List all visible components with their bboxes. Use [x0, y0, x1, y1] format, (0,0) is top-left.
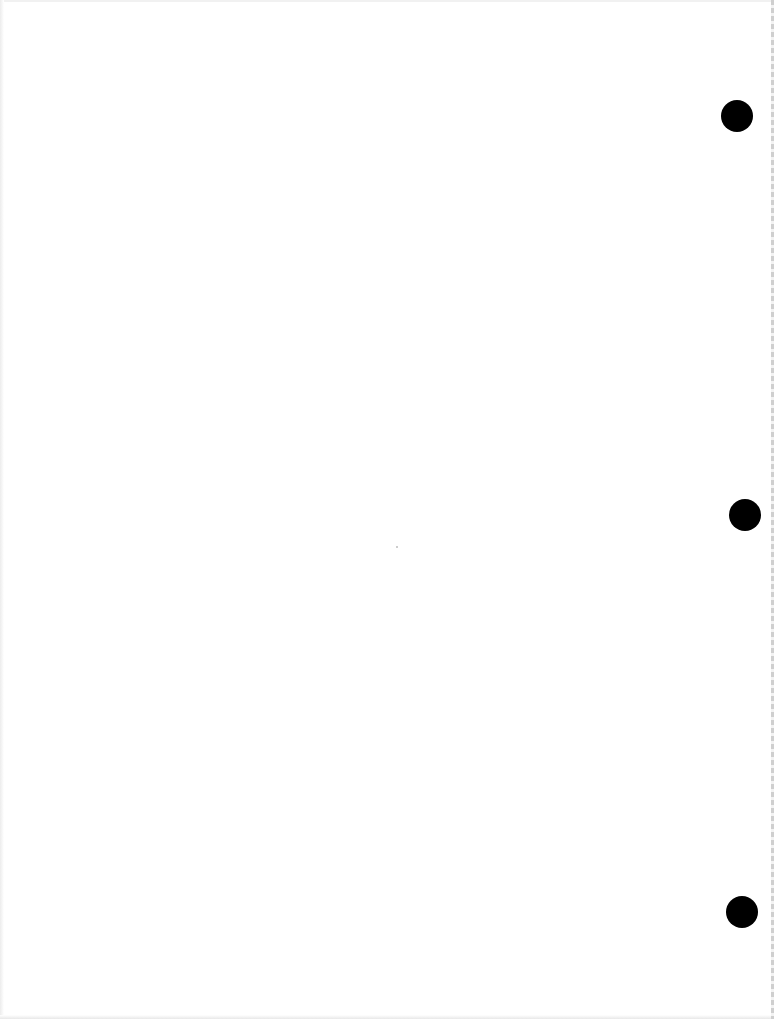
punch-hole-bottom — [726, 896, 758, 928]
scan-edge-left — [0, 0, 4, 1019]
blank-page — [0, 0, 774, 1019]
scan-edge-bottom — [0, 1015, 774, 1019]
punch-hole-top — [721, 100, 753, 132]
scan-edge-top — [0, 0, 774, 2]
scan-speck — [396, 546, 398, 548]
punch-hole-middle — [729, 499, 761, 531]
